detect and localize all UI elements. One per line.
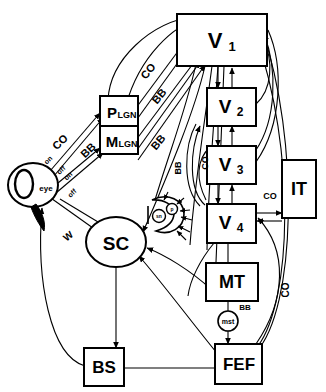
label-bb-lgn-v1a: BB bbox=[149, 86, 168, 106]
edge-fef-v4-co bbox=[256, 218, 280, 344]
sn-label: sn bbox=[156, 213, 162, 219]
node-sc[interactable]: SC bbox=[86, 217, 146, 267]
node-eye[interactable]: eye bbox=[8, 163, 58, 231]
label-bb-lgn-v1b: BB bbox=[148, 132, 167, 152]
v1-label: V bbox=[208, 28, 223, 53]
node-v1[interactable]: V 1 bbox=[177, 14, 267, 66]
plgn-label: P bbox=[107, 104, 117, 121]
node-mt[interactable]: MT bbox=[206, 263, 258, 301]
eye-label: eye bbox=[39, 184, 53, 193]
mst-label: mst bbox=[222, 318, 235, 325]
sc-label: SC bbox=[103, 233, 130, 254]
v3-label: V bbox=[219, 154, 232, 175]
pul-label: p bbox=[170, 206, 173, 212]
node-v3[interactable]: V 3 bbox=[207, 146, 256, 184]
label-w-retina-sc: W bbox=[61, 228, 76, 243]
bs-label: BS bbox=[92, 358, 116, 377]
edge-bs-eye bbox=[41, 208, 85, 366]
node-v4[interactable]: V 4 bbox=[207, 204, 256, 243]
connectivity-diagram: eye P LGN M LGN V 1 V 2 V 3 V 4 IT bbox=[0, 0, 326, 392]
v2-sub: 2 bbox=[237, 105, 244, 119]
v3-sub: 3 bbox=[237, 163, 244, 177]
fef-label: FEF bbox=[223, 355, 255, 374]
node-pulvinar[interactable]: sn p bbox=[148, 192, 192, 240]
plgn-sub: LGN bbox=[118, 110, 137, 120]
label-bb-mid: BB bbox=[173, 161, 183, 174]
edge-fef-sc bbox=[139, 256, 216, 352]
diagram-canvas: eye P LGN M LGN V 1 V 2 V 3 V 4 IT bbox=[0, 0, 326, 392]
label-co-mid: CO bbox=[200, 156, 210, 170]
edge-v1-down-d bbox=[155, 64, 196, 200]
node-it[interactable]: IT bbox=[282, 160, 316, 218]
label-co-lgn-v1: CO bbox=[138, 60, 158, 81]
mlgn-sub: LGN bbox=[119, 139, 138, 149]
v1-sub: 1 bbox=[228, 39, 235, 54]
node-mst[interactable]: mst bbox=[218, 311, 238, 331]
v4-sub: 4 bbox=[237, 221, 244, 235]
label-off-2: off bbox=[66, 187, 78, 199]
edge-mt-sc bbox=[147, 248, 212, 290]
v2-label: V bbox=[219, 96, 232, 117]
label-co-retina-lgn: CO bbox=[50, 132, 71, 152]
node-mlgn[interactable]: M LGN bbox=[100, 126, 138, 154]
node-plgn[interactable]: P LGN bbox=[100, 96, 138, 126]
label-bb-mt-mst: BB bbox=[239, 303, 251, 312]
mlgn-label: M bbox=[106, 133, 119, 150]
node-bs[interactable]: BS bbox=[84, 348, 124, 386]
node-v2[interactable]: V 2 bbox=[207, 88, 256, 126]
it-label: IT bbox=[291, 179, 307, 199]
label-co-right: CO bbox=[280, 282, 291, 297]
edge-eye-mlgn-bb-b bbox=[56, 153, 103, 193]
node-fef[interactable]: FEF bbox=[215, 344, 262, 384]
label-on-1: on bbox=[42, 155, 53, 166]
label-co-v4-it: CO bbox=[263, 191, 277, 201]
v4-label: V bbox=[219, 212, 232, 233]
mt-label: MT bbox=[219, 272, 245, 292]
edge-v4-v2-co-b bbox=[187, 124, 200, 206]
